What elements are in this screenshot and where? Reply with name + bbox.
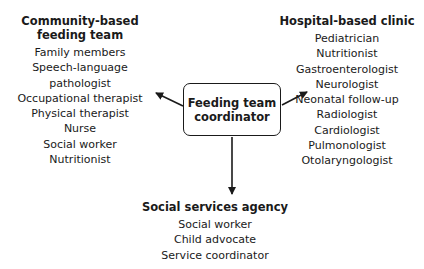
list-item: Physical therapist — [0, 106, 160, 121]
list-item: Nutritionist — [270, 46, 424, 61]
list-item: Otolaryngologist — [270, 153, 424, 168]
list-item: Cardiologist — [270, 123, 424, 138]
community-group-title: Community-based feeding team — [0, 14, 160, 42]
hospital-group-title: Hospital-based clinic — [270, 14, 424, 28]
list-item: Family members — [0, 45, 160, 60]
hospital-clinic-group: Hospital-based clinic Pediatrician Nutri… — [270, 14, 424, 169]
center-line1: Feeding team — [188, 96, 277, 110]
community-title-line2: feeding team — [0, 28, 160, 42]
community-feeding-team-group: Community-based feeding team Family memb… — [0, 14, 160, 167]
list-item: Nurse — [0, 121, 160, 136]
center-line2: coordinator — [188, 110, 277, 124]
list-item: Pulmonologist — [270, 138, 424, 153]
social-group-title: Social services agency — [130, 200, 300, 214]
list-item: Neonatal follow-up — [270, 92, 424, 107]
list-item: Social worker — [130, 217, 300, 232]
list-item: Occupational therapist — [0, 91, 160, 106]
social-services-group: Social services agency Social worker Chi… — [130, 200, 300, 263]
list-item: Pediatrician — [270, 31, 424, 46]
list-item: Nutritionist — [0, 152, 160, 167]
list-item: Radiologist — [270, 107, 424, 122]
list-item: Service coordinator — [130, 248, 300, 263]
community-title-line1: Community-based — [0, 14, 160, 28]
arrow-to-community — [156, 93, 183, 106]
list-item: Neurologist — [270, 77, 424, 92]
list-item: Speech-language pathologist — [0, 60, 160, 91]
list-item: Social worker — [0, 137, 160, 152]
feeding-team-coordinator-box: Feeding team coordinator — [183, 83, 281, 136]
list-item: Child advocate — [130, 232, 300, 247]
list-item: Gastroenterologist — [270, 62, 424, 77]
